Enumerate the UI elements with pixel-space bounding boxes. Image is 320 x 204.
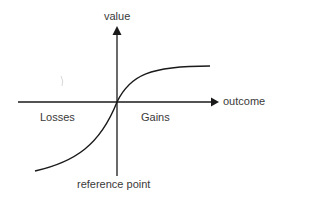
y-axis-label: value xyxy=(104,11,130,22)
outcome-axis-arrow-icon xyxy=(211,98,219,107)
reference-point-label: reference point xyxy=(77,179,150,190)
value-axis-arrow-icon xyxy=(113,26,122,35)
x-axis-label: outcome xyxy=(223,96,265,107)
gains-label: Gains xyxy=(141,112,170,123)
losses-label: Losses xyxy=(40,112,75,123)
stray-mark xyxy=(61,76,63,86)
